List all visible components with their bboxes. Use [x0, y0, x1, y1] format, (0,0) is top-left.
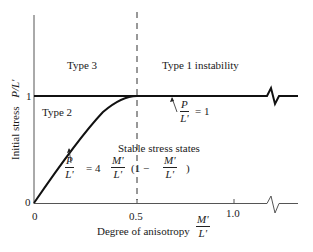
y-axis-label: Initial stress P/L' — [10, 80, 21, 160]
curve-eq-m: M' L' — [111, 155, 125, 180]
curve-eq-m2-den: L' — [166, 168, 174, 180]
y-axis-label-symbol: P/L' — [9, 80, 21, 98]
boundary-line-p-equals-1 — [34, 88, 298, 104]
curve-eq-m2-num: M' — [163, 155, 177, 168]
line-eq-num: P — [180, 99, 189, 112]
line-eq-rhs: = 1 — [195, 106, 209, 117]
curve-eq-equals: = 4 — [86, 163, 100, 174]
y-tick-label-0: 0 — [25, 197, 31, 208]
curve-eq-lhs: P L' — [65, 155, 74, 180]
line-eq-den: L' — [180, 112, 188, 124]
curve-eq-m-num: M' — [111, 155, 125, 168]
x-axis-label: Degree of anisotropy — [97, 226, 190, 237]
x-tick-label-0.5: 0.5 — [129, 211, 143, 222]
y-tick-label-1: 1 — [26, 91, 32, 102]
region-type1-label: Type 1 instability — [162, 60, 239, 71]
line-eq-fraction: P L' — [180, 99, 189, 124]
curve-eq-lhs-num: P — [65, 155, 74, 168]
x-axis-label-num: M' — [196, 214, 210, 227]
curve-eq-lhs-den: L' — [65, 168, 73, 180]
curve-eq-paren-close: ) — [186, 163, 190, 174]
region-stable-label: Stable stress states — [118, 143, 200, 154]
curve-eq-m2: M' L' — [163, 155, 177, 180]
curve-eq-m-den: L' — [114, 168, 122, 180]
x-tick-label-0: 0 — [32, 211, 38, 222]
y-axis-label-text: Initial stress — [9, 107, 21, 160]
x-tick-label-1.0: 1.0 — [226, 208, 240, 219]
x-axis — [34, 196, 298, 213]
x-axis-label-fraction: M' L' — [196, 214, 210, 239]
region-type2-label: Type 2 — [42, 107, 72, 118]
curve-eq-paren-open: (1 − — [131, 163, 149, 174]
stress-diagram — [0, 0, 313, 252]
x-axis-label-den: L' — [199, 227, 207, 239]
region-type3-label: Type 3 — [67, 60, 97, 71]
